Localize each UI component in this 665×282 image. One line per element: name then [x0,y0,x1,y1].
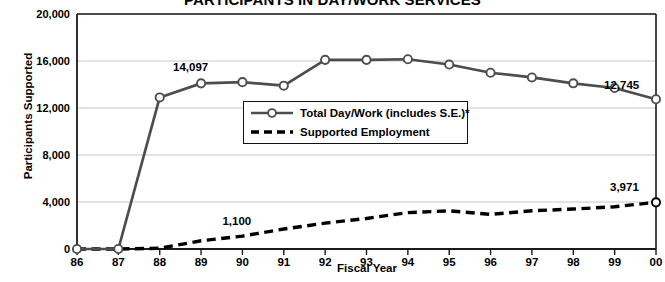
x-tick-label: 92 [305,256,345,268]
x-tick-label: 94 [388,256,428,268]
data-label: 1,100 [222,215,251,227]
x-tick-label: 86 [57,256,97,268]
y-tick-label: 4,000 [10,197,70,208]
data-label: 12,745 [604,79,639,91]
x-tick-label: 98 [553,256,593,268]
legend-item-supported-employment: Supported Employment [250,123,430,141]
x-tick-label: 90 [222,256,262,268]
x-tick-label: 00 [636,256,665,268]
legend-label: Total Day/Work (includes S.E.)* [300,107,470,119]
x-tick-label: 87 [98,256,138,268]
data-label: 14,097 [173,61,208,73]
chart-title: PARTICIPANTS IN DAY/WORK SERVICES [0,0,665,8]
legend-swatch-dashed [250,125,294,139]
x-tick-label: 91 [264,256,304,268]
legend-item-total-day-work: Total Day/Work (includes S.E.)* [250,104,470,122]
y-tick-label: 16,000 [10,56,70,67]
x-tick-label: 88 [140,256,180,268]
data-label: 3,971 [610,181,639,193]
y-tick-label: 20,000 [10,9,70,20]
x-tick-label: 97 [512,256,552,268]
y-tick-label: 0 [10,244,70,255]
x-tick-label: 95 [429,256,469,268]
x-tick-label: 89 [181,256,221,268]
legend-swatch-solid-circle [250,106,294,120]
y-tick-label: 8,000 [10,150,70,161]
chart-legend: Total Day/Work (includes S.E.)* Supporte… [243,101,468,144]
legend-label: Supported Employment [300,126,430,138]
y-tick-label: 12,000 [10,103,70,114]
x-tick-label: 93 [347,256,387,268]
x-tick-label: 96 [471,256,511,268]
x-tick-label: 99 [595,256,635,268]
chart-figure: PARTICIPANTS IN DAY/WORK SERVICES Partic… [0,0,665,282]
y-axis-tick-labels: 04,0008,00012,00016,00020,000 [0,0,70,282]
